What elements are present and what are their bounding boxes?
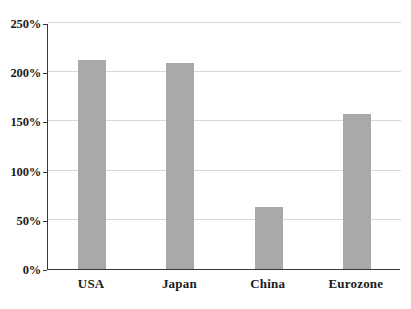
y-axis-tick-mark xyxy=(43,270,47,271)
bar xyxy=(343,114,371,269)
y-axis-tick-label: 150% xyxy=(0,115,41,130)
y-axis-tick-label: 200% xyxy=(0,66,41,81)
gridline xyxy=(48,22,401,23)
bar xyxy=(78,60,106,269)
bar xyxy=(255,207,283,269)
y-axis-tick-label: 50% xyxy=(0,213,41,228)
x-axis-category-label: Eurozone xyxy=(312,276,400,292)
bar-chart: 0%50%100%150%200%250% USAJapanChinaEuroz… xyxy=(0,0,411,309)
y-axis-tick-label: 0% xyxy=(0,263,41,278)
x-axis-category-label: China xyxy=(224,276,312,292)
x-axis-category-label: Japan xyxy=(135,276,223,292)
x-axis-category-label: USA xyxy=(47,276,135,292)
bar xyxy=(166,63,194,269)
plot-area xyxy=(47,24,400,270)
y-axis-tick-label: 100% xyxy=(0,164,41,179)
y-axis-tick-label: 250% xyxy=(0,17,41,32)
